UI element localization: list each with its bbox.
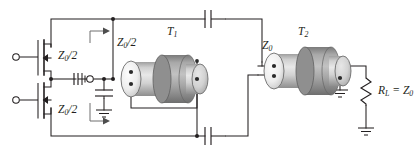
label-z-half-mid-tail: /2 xyxy=(127,36,136,48)
label-z-half-lower-tail: /2 xyxy=(68,103,77,115)
wire-gate-lower xyxy=(20,83,38,118)
label-t1: T1 xyxy=(167,26,177,39)
t2-shield-right xyxy=(338,76,342,80)
label-load-resistor: RL = Z0 xyxy=(378,85,413,98)
label-z-half-lower: Z0/2 xyxy=(58,104,77,117)
arrow-z-half-upper-path xyxy=(90,31,103,43)
schematic-canvas xyxy=(0,0,417,154)
load-resistor xyxy=(361,78,371,106)
label-t2: T2 xyxy=(298,26,308,39)
wire-drain-lower xyxy=(44,80,51,87)
t1-shield-right xyxy=(195,59,199,63)
wire-bottom-rail-right xyxy=(226,75,258,136)
junction-top-mid xyxy=(111,17,115,21)
junction-mid-node xyxy=(111,77,115,81)
junction-source-node xyxy=(49,77,53,81)
wire-gate-upper xyxy=(20,40,38,75)
arrowhead-upper xyxy=(103,28,110,35)
ground-shunt-cap xyxy=(96,110,112,117)
wire-source-upper xyxy=(44,71,51,78)
arrow-z-half-lower-path xyxy=(90,103,103,121)
label-load-tail-sub: 0 xyxy=(409,89,413,98)
coax-transformer-t2 xyxy=(264,47,351,95)
input-terminal-mid xyxy=(87,76,94,83)
t1-shield-left xyxy=(129,82,133,86)
t2-shield-left xyxy=(272,74,276,78)
input-terminal-lower xyxy=(13,97,20,104)
t1-center-conductor-right xyxy=(195,77,199,81)
circuit-diagram-figure: Z0/2 Z0/2 Z0/2 Z0 T1 T2 RL = Z0 xyxy=(0,0,417,154)
label-z0-right: Z0 xyxy=(262,40,272,53)
label-z0-right-sub: 0 xyxy=(268,44,272,53)
label-load-tail: = Z xyxy=(389,84,409,96)
label-t1-sub: 1 xyxy=(173,30,177,39)
wire-source-lower xyxy=(44,108,51,114)
coax-transformer-t1 xyxy=(121,55,208,103)
label-z-half-mid: Z0/2 xyxy=(117,37,136,50)
label-load-main: R xyxy=(378,84,385,96)
t2-center-conductor-left xyxy=(272,64,276,68)
label-t2-sub: 2 xyxy=(304,30,308,39)
label-z-half-upper-tail: /2 xyxy=(68,49,77,61)
junction-bottom-t1 xyxy=(195,134,199,138)
t1-center-conductor-left xyxy=(129,70,133,74)
ground-load xyxy=(358,128,374,135)
label-z-half-upper: Z0/2 xyxy=(58,50,77,63)
junction-shunt-cap xyxy=(102,77,106,81)
wire-drain-upper xyxy=(44,44,51,47)
wire-top-rail-right xyxy=(226,19,262,62)
arrowhead-lower xyxy=(103,118,110,125)
input-terminal-upper xyxy=(13,54,20,61)
